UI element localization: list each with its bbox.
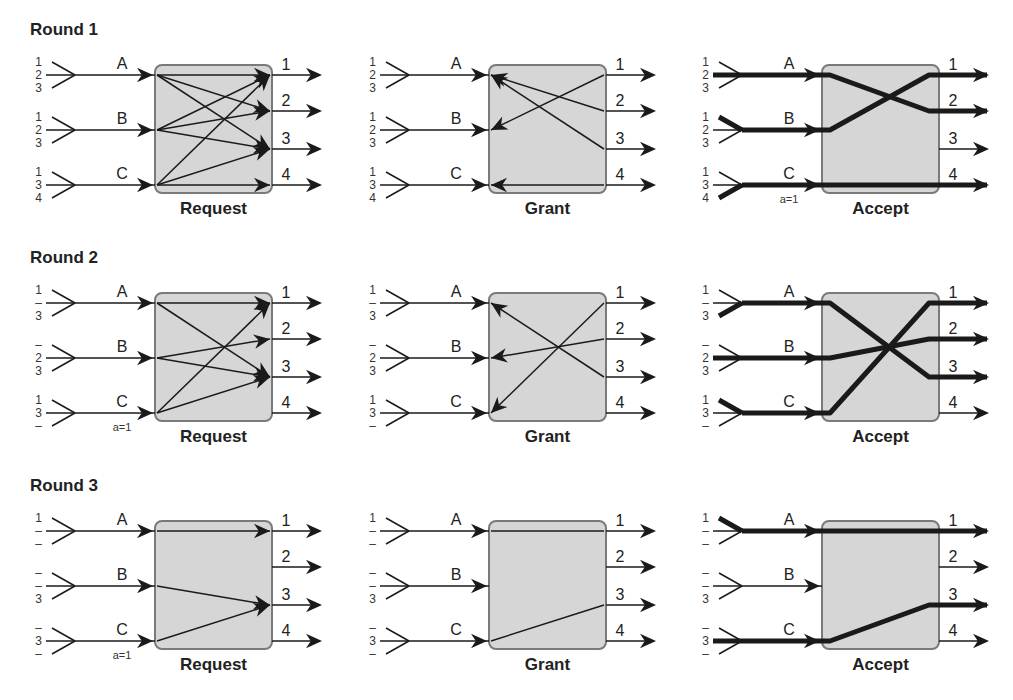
voq-label: – (369, 419, 376, 433)
output-4-label: 4 (282, 394, 291, 411)
input-A-label: A (451, 55, 462, 72)
output-4: 4 (606, 622, 656, 648)
output-3-label: 3 (949, 586, 958, 603)
output-4-label: 4 (282, 622, 291, 639)
voq-label: – (369, 579, 376, 593)
output-2-label: 2 (616, 320, 625, 337)
output-2-label: 2 (282, 92, 291, 109)
voq-label: 1 (702, 283, 709, 297)
input-C-queue: 13–C (702, 393, 822, 433)
output-2: 2 (606, 320, 656, 346)
voq-label: – (702, 296, 709, 310)
output-1-label: 1 (949, 284, 958, 301)
output-3-label: 3 (282, 130, 291, 147)
voq-label: – (702, 419, 709, 433)
accept-pointer-annotation: a=1 (113, 421, 132, 433)
output-4-label: 4 (616, 394, 625, 411)
round-1-request-panel: 123A123B134C1234Request (30, 50, 350, 220)
output-2-label: 2 (949, 320, 958, 337)
voq-label: 3 (702, 81, 709, 95)
voq-label: – (702, 621, 709, 635)
voq-label: 3 (702, 406, 709, 420)
round-1-accept-panel: 123A123B134C1234Accepta=1 (697, 50, 1013, 220)
voq-label: – (369, 524, 376, 538)
voq-label: 2 (369, 123, 376, 137)
grant-label: Grant (525, 655, 571, 674)
voq-label: 1 (702, 110, 709, 124)
voq-label: 1 (35, 55, 42, 69)
voq-label: – (702, 338, 709, 352)
input-B-queue: 123B (702, 110, 822, 150)
input-B-queue: 123B (35, 110, 155, 150)
output-2: 2 (939, 92, 989, 118)
voq-label: 3 (35, 309, 42, 323)
output-1: 1 (939, 284, 989, 310)
output-2: 2 (606, 548, 656, 574)
output-4: 4 (272, 622, 322, 648)
output-1-label: 1 (616, 56, 625, 73)
output-3: 3 (939, 586, 989, 612)
input-A-label: A (117, 55, 128, 72)
voq-label: 3 (369, 136, 376, 150)
round-3-accept-panel: 1––A––3B–3–C1234Accept (697, 506, 1013, 676)
voq-label: 2 (35, 68, 42, 82)
input-B-queue: 123B (369, 110, 489, 150)
output-2-label: 2 (282, 548, 291, 565)
voq-label: – (702, 647, 709, 661)
voq-label: 3 (702, 178, 709, 192)
voq-label: – (702, 579, 709, 593)
input-A-label: A (451, 283, 462, 300)
voq-label: 3 (702, 592, 709, 606)
voq-label: 1 (369, 110, 376, 124)
voq-label: 4 (702, 191, 709, 205)
output-2: 2 (939, 320, 989, 346)
output-2: 2 (272, 548, 322, 574)
input-B-label: B (117, 566, 128, 583)
input-C-queue: –3–C (369, 621, 489, 661)
input-A-label: A (117, 511, 128, 528)
output-3: 3 (939, 358, 989, 384)
voq-label: 1 (702, 511, 709, 525)
output-4: 4 (272, 166, 322, 192)
round-1-title: Round 1 (30, 20, 98, 40)
input-B-label: B (451, 110, 462, 127)
output-4: 4 (939, 394, 989, 420)
voq-label: 1 (702, 55, 709, 69)
input-B-label: B (117, 338, 128, 355)
output-4: 4 (606, 394, 656, 420)
voq-label: 3 (35, 136, 42, 150)
output-4: 4 (939, 166, 989, 192)
input-B-queue: –23B (35, 338, 155, 378)
input-C-label: C (450, 393, 462, 410)
input-A-queue: 1–3A (702, 283, 822, 323)
input-B-label: B (117, 110, 128, 127)
voq-label: – (35, 296, 42, 310)
input-C-queue: 134C (35, 165, 155, 205)
input-C-queue: 13–C (369, 393, 489, 433)
input-C-label: C (116, 165, 128, 182)
voq-label: 3 (369, 178, 376, 192)
round-2-request-panel: 1–3A–23B13–C1234Requesta=1 (30, 278, 350, 448)
switch-fabric-box (822, 65, 939, 193)
voq-label: 1 (35, 165, 42, 179)
output-3: 3 (606, 358, 656, 384)
voq-label: 2 (369, 351, 376, 365)
output-1: 1 (272, 284, 322, 310)
input-A-queue: 1–3A (369, 283, 489, 323)
voq-label: 2 (702, 68, 709, 82)
output-3: 3 (272, 358, 322, 384)
switch-fabric-box (822, 521, 939, 649)
output-2: 2 (272, 320, 322, 346)
output-2-label: 2 (949, 92, 958, 109)
output-1: 1 (606, 56, 656, 82)
voq-label: – (35, 566, 42, 580)
output-3-label: 3 (616, 586, 625, 603)
voq-label: – (35, 621, 42, 635)
input-A-label: A (784, 283, 795, 300)
voq-label: 3 (369, 634, 376, 648)
round-2-title: Round 2 (30, 248, 98, 268)
voq-label: – (369, 621, 376, 635)
input-A-label: A (784, 511, 795, 528)
voq-label: 3 (702, 309, 709, 323)
input-A-queue: 123A (369, 55, 489, 95)
